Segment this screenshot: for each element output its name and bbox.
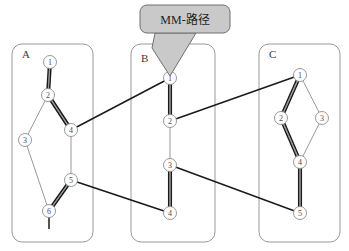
node-label-c4: 4 — [298, 158, 302, 167]
node-a2[interactable]: 2 — [42, 89, 55, 102]
node-b2[interactable]: 2 — [164, 115, 177, 128]
node-label-a6: 6 — [47, 207, 51, 216]
node-label-a4: 4 — [69, 126, 73, 135]
node-a4[interactable]: 4 — [65, 124, 78, 137]
diagram-canvas: ABC 123456123412345 MM-路径 — [0, 0, 349, 251]
node-b4[interactable]: 4 — [164, 207, 177, 220]
node-c4[interactable]: 4 — [294, 156, 307, 169]
node-label-b2: 2 — [168, 117, 172, 126]
panel-label-c: C — [269, 48, 276, 60]
panel-label-b: B — [141, 52, 148, 64]
node-label-c3: 3 — [320, 114, 324, 123]
node-a5[interactable]: 5 — [65, 174, 78, 187]
node-c3[interactable]: 3 — [316, 112, 329, 125]
node-b3[interactable]: 3 — [164, 159, 177, 172]
node-label-c1: 1 — [298, 71, 302, 80]
node-a6[interactable]: 6 — [43, 205, 56, 218]
node-label-a3: 3 — [23, 136, 27, 145]
node-c5[interactable]: 5 — [294, 207, 307, 220]
panel-label-a: A — [22, 48, 30, 60]
node-label-b3: 3 — [168, 161, 172, 170]
node-c2[interactable]: 2 — [275, 112, 288, 125]
node-label-a1: 1 — [48, 58, 52, 67]
node-c1[interactable]: 1 — [294, 69, 307, 82]
mm-path-diagram: ABC 123456123412345 MM-路径 — [0, 0, 349, 251]
node-label-c5: 5 — [298, 209, 302, 218]
node-label-a2: 2 — [46, 91, 50, 100]
node-label-c2: 2 — [279, 114, 283, 123]
node-a1[interactable]: 1 — [44, 56, 57, 69]
node-label-a5: 5 — [69, 176, 73, 185]
callout-label: MM-路径 — [160, 12, 209, 27]
node-label-b4: 4 — [168, 209, 172, 218]
node-a3[interactable]: 3 — [19, 134, 32, 147]
